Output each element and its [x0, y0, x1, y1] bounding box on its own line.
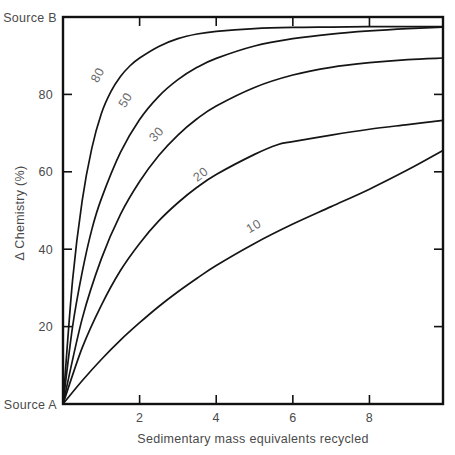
chart-figure: 246820406080 8050302010 Source A Source …	[0, 0, 455, 455]
curve-label-20: 20	[191, 164, 211, 184]
plot-frame	[63, 17, 443, 404]
y-tick-label-20: 20	[38, 320, 53, 334]
curves-group	[63, 27, 443, 404]
curve-label-30: 30	[146, 124, 166, 144]
curve-20	[63, 120, 443, 404]
y-tick-label-60: 60	[38, 165, 53, 179]
curve-label-10: 10	[244, 217, 264, 237]
y-axis-top-label: Source B	[3, 11, 57, 25]
x-tick-label-2: 2	[136, 411, 143, 425]
y-tick-label-80: 80	[38, 88, 53, 102]
x-tick-label-8: 8	[366, 411, 373, 425]
x-tick-label-6: 6	[289, 411, 296, 425]
plot-area: 246820406080 8050302010 Source A Source …	[0, 0, 455, 455]
curve-label-80: 80	[88, 65, 107, 85]
y-tick-label-40: 40	[38, 243, 53, 257]
x-tick-label-4: 4	[213, 411, 220, 425]
curve-10	[63, 151, 443, 404]
curve-labels-group: 8050302010	[88, 65, 264, 236]
axis-ticks-group	[63, 17, 443, 404]
y-axis-bottom-label: Source A	[4, 398, 57, 412]
y-axis-title: Δ Chemistry (%)	[13, 166, 27, 261]
curve-label-50: 50	[116, 90, 136, 110]
x-axis-title: Sedimentary mass equivalents recycled	[137, 432, 368, 446]
